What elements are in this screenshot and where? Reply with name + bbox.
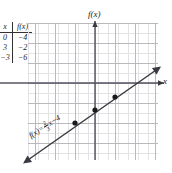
- table-cell-x: 0: [0, 33, 13, 44]
- plot-area: [28, 23, 158, 160]
- x-axis-label: x: [163, 76, 167, 86]
- table-cell-x: 3: [0, 43, 13, 53]
- table-cell-x: −3: [0, 53, 13, 63]
- line-segment: [25, 68, 159, 162]
- line-arrow-end: [152, 67, 161, 75]
- table-header-x: x: [0, 22, 13, 33]
- graph-figure: x f(x) 0 −4 3 −2 −3 −6: [0, 0, 172, 173]
- data-point: [112, 94, 117, 99]
- line-arrow-start: [23, 156, 32, 164]
- data-point: [72, 120, 77, 125]
- y-axis-label: f(x): [88, 9, 101, 19]
- function-line: [28, 23, 158, 160]
- data-point: [92, 107, 97, 112]
